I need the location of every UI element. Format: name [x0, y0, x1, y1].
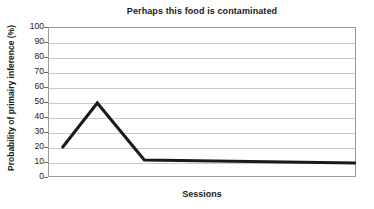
y-axis-tick-label: 40 — [18, 112, 44, 121]
plot-area — [48, 27, 356, 177]
x-axis-label: Sessions — [48, 189, 356, 199]
chart-title: Perhaps this food is contaminated — [48, 6, 356, 16]
y-axis-tick-label: 0 — [18, 172, 44, 181]
y-axis-tick-label: 30 — [18, 127, 44, 136]
y-axis-tick-label: 20 — [18, 142, 44, 151]
y-axis-tick-label: 100 — [18, 22, 44, 31]
y-axis-label: Probability of primairy inference (%) — [6, 18, 16, 178]
y-axis-tick-label: 80 — [18, 52, 44, 61]
chart-figure: Perhaps this food is contaminated Probab… — [0, 0, 374, 209]
y-axis-tick-label: 60 — [18, 82, 44, 91]
y-axis-tick-label: 90 — [18, 37, 44, 46]
data-series-line — [49, 28, 357, 178]
y-axis-tick-label: 70 — [18, 67, 44, 76]
y-axis-tick-label: 10 — [18, 157, 44, 166]
series-polyline — [62, 103, 356, 163]
y-axis-tick-mark — [44, 177, 48, 178]
y-axis-tick-label: 50 — [18, 97, 44, 106]
